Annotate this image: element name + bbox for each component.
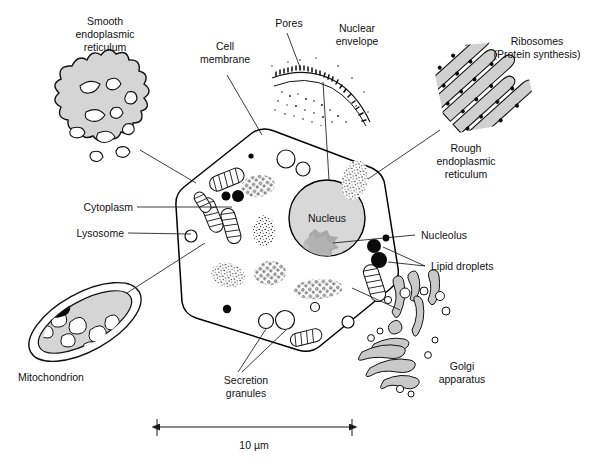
nuclear-envelope-outer [272, 72, 370, 122]
secretion-granules-label-line1: Secretion [224, 374, 269, 386]
ribosome-cluster [253, 215, 275, 247]
scale-bar-value: 10 µm [239, 439, 269, 451]
label-pores: Pores [275, 17, 302, 29]
leader-lipid-b [388, 262, 425, 266]
secretion-granules-label-line2: granules [226, 387, 266, 399]
ribosome-cluster [292, 277, 343, 300]
label-secretion-granules: Secretion granules [224, 374, 269, 399]
label-mitochondrion: Mitochondrion [18, 371, 84, 383]
mitochondrion-shape [207, 166, 246, 193]
lipid-droplet-shape [371, 252, 387, 268]
lysosome-shape [277, 150, 295, 168]
golgi-label-line1: Golgi [450, 360, 475, 372]
lysosome-shape [259, 314, 274, 329]
label-golgi: Golgi apparatus [439, 360, 486, 385]
lysosome-shape [311, 303, 320, 312]
nucleus-label: Nucleus [308, 212, 346, 224]
leader-smooth-er [140, 150, 196, 183]
nuclear-pore-marks [276, 66, 366, 121]
golgi-cisterna [366, 359, 415, 377]
smooth-er-label-line2: endoplasmic [76, 28, 135, 40]
ribosome-cluster [209, 259, 248, 291]
golgi-cisterna [388, 320, 402, 334]
mitochondrion-inset [17, 267, 154, 378]
label-lipid-droplets: Lipid droplets [431, 260, 493, 272]
leader-nuclear-envelope [323, 82, 329, 180]
smooth-er-label-line3: reticulum [84, 41, 127, 53]
lipid-droplet-shape [223, 305, 231, 313]
mitochondrion-shape [362, 263, 388, 304]
label-smooth-er: Smooth endoplasmic reticulum [76, 15, 135, 53]
ribosomes-label-line1: Ribosomes [511, 35, 564, 47]
leader-lysosome [128, 233, 191, 234]
label-rough-er: Rough endoplasmic reticulum [437, 142, 496, 180]
cytoplasm-label: Cytoplasm [83, 201, 133, 213]
golgi-label-line2: apparatus [439, 373, 486, 385]
cell-diagram-svg: Nucleus [0, 0, 599, 466]
leader-pores [287, 33, 301, 70]
lipid-droplets-label: Lipid droplets [431, 260, 493, 272]
leader-secretion-b [242, 330, 286, 372]
scale-bar: 10 µm [157, 419, 352, 451]
golgi-cisterna [359, 345, 406, 360]
ribosome-cluster [253, 259, 287, 286]
mitochondrion-shape [289, 327, 323, 347]
lipid-droplet-shape [367, 239, 381, 253]
nucleolus-label: Nucleolus [421, 229, 467, 241]
lysosome-label: Lysosome [77, 227, 125, 239]
nuclear-envelope-inset [271, 57, 370, 129]
smooth-er-label-line1: Smooth [87, 15, 123, 27]
ribosomes-label-line2: (Protein synthesis) [494, 48, 581, 60]
rough-er-label-line2: endoplasmic [437, 155, 496, 167]
cell-membrane-label-line1: Cell [216, 40, 234, 52]
lipid-droplet-shape [222, 192, 231, 201]
leader-rough-er [368, 130, 440, 179]
lysosome-shape [296, 162, 310, 176]
label-ribosomes: Ribosomes (Protein synthesis) [494, 35, 581, 60]
nuclear-envelope-stipple [271, 57, 368, 129]
leader-lipid-a [383, 247, 425, 266]
lysosome-shape [342, 316, 354, 328]
ribosome-cluster [240, 173, 277, 200]
mitochondrion-label: Mitochondrion [18, 371, 84, 383]
figure-canvas: Nucleus [0, 0, 599, 466]
label-lysosome: Lysosome [77, 227, 125, 239]
lipid-droplet-shape [248, 153, 253, 158]
pores-label: Pores [275, 17, 302, 29]
lysosome-shape [276, 311, 295, 330]
nuclear-envelope-label-line1: Nuclear [339, 22, 376, 34]
rough-er-label-line3: reticulum [445, 168, 488, 180]
label-cytoplasm: Cytoplasm [83, 201, 133, 213]
cell-membrane-label-line2: membrane [200, 53, 250, 65]
leader-mitochondrion [127, 243, 205, 293]
leader-cell-membrane [227, 75, 262, 135]
nuclear-envelope-label-line2: envelope [336, 35, 379, 47]
lipid-droplet-shape [232, 190, 244, 202]
golgi-cisterna [412, 296, 424, 336]
label-cell-membrane: Cell membrane [200, 40, 250, 65]
label-nuclear-envelope: Nuclear envelope [336, 22, 379, 47]
rough-er-label-line1: Rough [451, 142, 482, 154]
smooth-er-inset [55, 50, 149, 162]
lysosome-shape [185, 230, 197, 242]
label-nucleolus: Nucleolus [421, 229, 467, 241]
